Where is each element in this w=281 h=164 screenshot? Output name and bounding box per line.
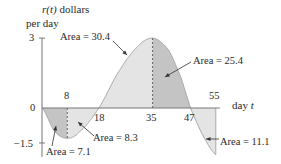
y-tick-neg-1-5: −1.5: [14, 139, 33, 150]
y-axis-label-line1: r(t) dollars: [42, 4, 89, 15]
x-tick-18: 18: [94, 113, 105, 124]
y-axis-label-line2: per day: [26, 18, 59, 29]
annotation-area-11-1: Area = 11.1: [220, 137, 270, 148]
x-tick-8: 8: [64, 91, 69, 102]
annotation-area-30-4: Area = 30.4: [60, 32, 110, 43]
x-tick-47: 47: [184, 113, 195, 124]
y-axis-function: r(t): [42, 3, 57, 15]
annotation-area-25-4: Area = 25.4: [193, 56, 243, 67]
x-tick-55: 55: [209, 91, 220, 102]
x-axis-label: day t: [232, 100, 254, 111]
region-18-35: [99, 38, 153, 108]
annotation-area-8-3: Area = 8.3: [93, 133, 138, 144]
x-axis-label-text: day: [232, 99, 251, 111]
annotation-area-7-1: Area = 7.1: [46, 147, 91, 158]
y-tick-0: 0: [30, 103, 35, 114]
y-tick-3: 3: [29, 33, 34, 44]
x-axis-variable: t: [251, 99, 254, 111]
y-axis-unit: dollars: [57, 3, 90, 15]
x-tick-35: 35: [146, 113, 157, 124]
